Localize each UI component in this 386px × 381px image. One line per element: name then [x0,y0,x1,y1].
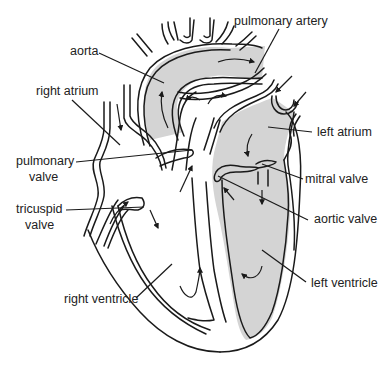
aortic-branch-4b [204,18,210,38]
label-tricuspid-valve-line1: tricuspid [16,202,63,216]
label-pulmonary-valve-line2: valve [29,170,58,184]
aortic-branch-3a [174,20,194,43]
leader-right-atrium [72,100,120,145]
aortic-branch-1b [137,34,152,52]
flow-arrow-rv-down [150,210,158,228]
leader-aorta [99,53,164,83]
aortic-branch-2a [162,24,168,44]
label-tricuspid-valve-line2: valve [25,218,54,232]
aortic-branch-3b [184,18,190,38]
aortic-branch-5b [222,26,234,44]
label-aorta: aorta [70,44,99,58]
label-left-atrium: left atrium [317,125,372,139]
label-left-ventricle: left ventricle [311,276,378,290]
flow-arrow-ra-down [117,104,121,130]
label-aortic-valve: aortic valve [314,212,377,226]
flow-arrow-pv-in-2 [294,92,306,106]
aortic-branch-1a [132,38,147,56]
label-right-ventricle: right ventricle [64,292,138,306]
heart-diagram: aorta pulmonary artery right atrium left… [0,0,386,381]
rv-outer-wall-2 [118,206,210,330]
flow-arrow-rv-swirl [180,268,200,297]
vena-cava-left-1 [84,102,104,236]
label-right-atrium: right atrium [36,84,99,98]
label-mitral-valve: mitral valve [305,172,368,186]
label-pulmonary-valve-line1: pulmonary [16,154,75,168]
label-pulmonary-artery: pulmonary artery [234,14,329,28]
aortic-branch-2b [168,22,174,40]
pulmonary-trunk-right [186,118,196,170]
rv-outer-wall-1 [112,206,206,334]
septum-left-line [188,178,214,321]
aortic-branch-4a [200,20,214,43]
